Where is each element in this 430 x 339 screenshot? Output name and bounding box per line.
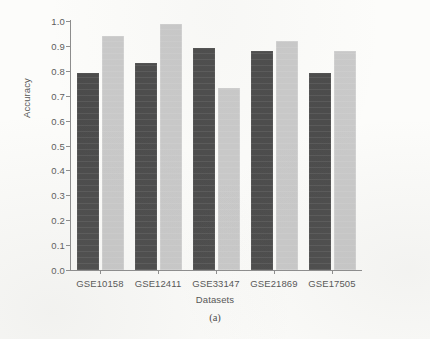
bar-GSE33147-series-1 [193, 48, 215, 270]
figure-caption: (a) [0, 312, 430, 323]
x-tick-mark [332, 270, 333, 274]
bar-GSE17505-series-1 [309, 73, 331, 270]
bar-texture [135, 63, 157, 270]
bar-texture [334, 51, 356, 270]
y-tick-label: 0.4 [51, 165, 65, 176]
x-tick-label: GSE33147 [192, 278, 239, 289]
x-tick-mark [100, 270, 101, 274]
bar-GSE17505-series-2 [334, 51, 356, 270]
y-tick-label: 1.0 [51, 16, 65, 27]
bar-GSE21869-series-2 [276, 41, 298, 270]
y-tick-label: 0.5 [51, 140, 65, 151]
y-tick-label: 0.0 [51, 265, 65, 276]
bar-group [129, 21, 187, 270]
bar-texture [276, 41, 298, 270]
bar-GSE33147-series-2 [218, 88, 240, 270]
bar-texture [102, 36, 124, 270]
bar-texture [309, 73, 331, 270]
y-tick-label: 0.2 [51, 215, 65, 226]
plot-area: 0.00.10.20.30.40.50.60.70.80.91.0 [71, 21, 361, 270]
bar-group [187, 21, 245, 270]
bar-texture [193, 48, 215, 270]
y-tick-label: 0.3 [51, 190, 65, 201]
x-tick-label: GSE21869 [250, 278, 297, 289]
bar-group [303, 21, 361, 270]
bar-GSE21869-series-1 [251, 51, 273, 270]
x-tick-mark [158, 270, 159, 274]
bar-texture [251, 51, 273, 270]
bar-texture [160, 24, 182, 271]
y-tick-label: 0.9 [51, 40, 65, 51]
y-tick-mark [66, 270, 71, 271]
x-tick-mark [216, 270, 217, 274]
y-tick-label: 0.6 [51, 115, 65, 126]
y-tick-label: 0.1 [51, 240, 65, 251]
x-tick-label: GSE17505 [308, 278, 355, 289]
x-tick-label: GSE10158 [76, 278, 123, 289]
bar-GSE10158-series-2 [102, 36, 124, 270]
bar-group [71, 21, 129, 270]
x-tick-mark [274, 270, 275, 274]
bar-texture [77, 73, 99, 270]
bar-GSE10158-series-1 [77, 73, 99, 270]
bar-texture [218, 88, 240, 270]
x-axis-title: Datasets [0, 294, 430, 305]
y-tick-label: 0.7 [51, 90, 65, 101]
bar-GSE12411-series-2 [160, 24, 182, 271]
y-axis-title: Accuracy [21, 78, 32, 118]
x-tick-label: GSE12411 [135, 278, 182, 289]
y-tick-label: 0.8 [51, 65, 65, 76]
bar-group [245, 21, 303, 270]
figure-panel-a: Accuracy 0.00.10.20.30.40.50.60.70.80.91… [0, 0, 430, 339]
bar-GSE12411-series-1 [135, 63, 157, 270]
